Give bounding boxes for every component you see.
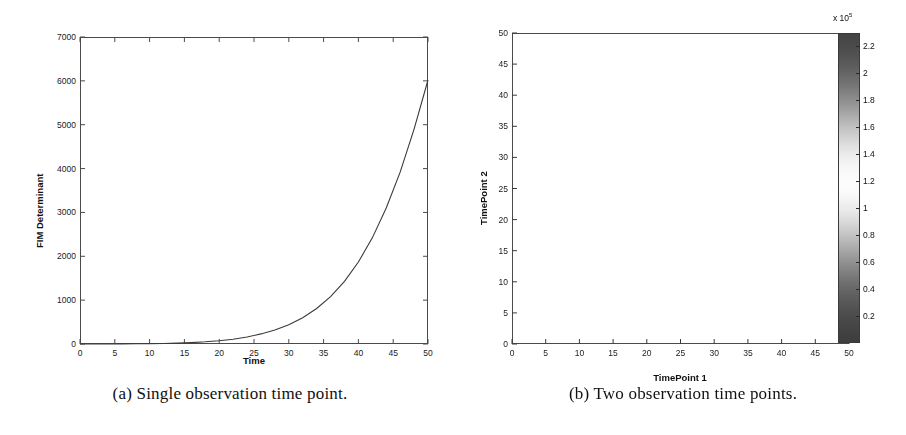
x-tick-label: 35 — [319, 348, 328, 358]
colorbar-tick-label: 2.2 — [863, 41, 875, 51]
y-tick-label: 5 — [486, 308, 508, 318]
x-tick-label: 30 — [709, 348, 718, 358]
y-tick-label: 30 — [486, 152, 508, 162]
y-tick-label: 7000 — [50, 32, 76, 42]
heatmap-y-axis-title: TimePoint 2 — [478, 171, 489, 225]
x-tick-label: 50 — [844, 348, 853, 358]
x-tick-label: 30 — [284, 348, 293, 358]
x-tick-label: 35 — [743, 348, 752, 358]
y-tick-label: 50 — [486, 28, 508, 38]
heatmap-colorbar — [838, 33, 860, 343]
colorbar-tick — [856, 316, 860, 317]
x-tick-label: 0 — [78, 348, 83, 358]
heatmap-x-axis-title: TimePoint 1 — [653, 372, 707, 383]
x-tick-label: 20 — [642, 348, 651, 358]
colorbar-tick — [856, 127, 860, 128]
x-tick-label: 10 — [145, 348, 154, 358]
colorbar-tick — [856, 154, 860, 155]
colorbar-tick-label: 1.4 — [863, 149, 875, 159]
colorbar-tick-label: 0.6 — [863, 257, 875, 267]
colorbar-exponent-base: x 10 — [833, 13, 849, 23]
colorbar-tick-label: 1.6 — [863, 122, 875, 132]
colorbar-tick — [856, 235, 860, 236]
x-tick-label: 25 — [676, 348, 685, 358]
x-tick-label: 20 — [214, 348, 223, 358]
colorbar-tick-label: 0.2 — [863, 311, 875, 321]
y-tick-label: 20 — [486, 215, 508, 225]
x-tick-label: 40 — [354, 348, 363, 358]
colorbar-tick — [856, 73, 860, 74]
line-chart-x-axis-title: Time — [243, 355, 265, 366]
fim-determinant-curve — [0, 0, 460, 435]
y-tick-label: 6000 — [50, 76, 76, 86]
colorbar-tick — [856, 100, 860, 101]
caption-panel-b: (b) Two observation time points. — [460, 384, 906, 404]
x-tick-label: 0 — [510, 348, 515, 358]
colorbar-tick-label: 0.4 — [863, 284, 875, 294]
x-tick-label: 5 — [543, 348, 548, 358]
colorbar-gradient — [839, 34, 859, 342]
y-tick-label: 5000 — [50, 120, 76, 130]
y-tick-label: 25 — [486, 184, 508, 194]
x-tick-label: 15 — [180, 348, 189, 358]
x-tick-label: 10 — [575, 348, 584, 358]
x-tick-label: 45 — [811, 348, 820, 358]
line-chart-y-axis-title: FIM Determinant — [34, 174, 45, 248]
caption-panel-a: (a) Single observation time point. — [0, 384, 460, 404]
colorbar-tick — [856, 208, 860, 209]
colorbar-tick — [856, 181, 860, 182]
y-tick-label: 2000 — [50, 251, 76, 261]
y-tick-label: 3000 — [50, 207, 76, 217]
colorbar-exponent-label: x 105 — [833, 12, 852, 23]
y-tick-label: 1000 — [50, 295, 76, 305]
colorbar-tick-label: 1 — [863, 203, 868, 213]
panel-two-time-points: 05101520253035404550 0510152025303540455… — [460, 0, 906, 435]
panel-single-time-point: 05101520253035404550 0100020003000400050… — [0, 0, 460, 435]
colorbar-tick-label: 1.8 — [863, 95, 875, 105]
colorbar-tick-label: 1.2 — [863, 176, 875, 186]
colorbar-tick-label: 0.8 — [863, 230, 875, 240]
y-tick-label: 4000 — [50, 164, 76, 174]
colorbar-tick — [856, 262, 860, 263]
x-tick-label: 45 — [388, 348, 397, 358]
y-tick-label: 10 — [486, 277, 508, 287]
colorbar-tick-label: 2 — [863, 68, 868, 78]
x-tick-label: 50 — [423, 348, 432, 358]
colorbar-tick — [856, 289, 860, 290]
x-tick-label: 15 — [608, 348, 617, 358]
y-tick-label: 45 — [486, 59, 508, 69]
colorbar-exponent-power: 5 — [849, 12, 852, 18]
y-tick-label: 35 — [486, 121, 508, 131]
figure-row: 05101520253035404550 0100020003000400050… — [0, 0, 906, 435]
x-tick-label: 40 — [777, 348, 786, 358]
y-tick-label: 0 — [50, 339, 76, 349]
y-tick-label: 0 — [486, 339, 508, 349]
y-tick-label: 15 — [486, 246, 508, 256]
x-tick-label: 5 — [112, 348, 117, 358]
y-tick-label: 40 — [486, 90, 508, 100]
colorbar-tick — [856, 46, 860, 47]
